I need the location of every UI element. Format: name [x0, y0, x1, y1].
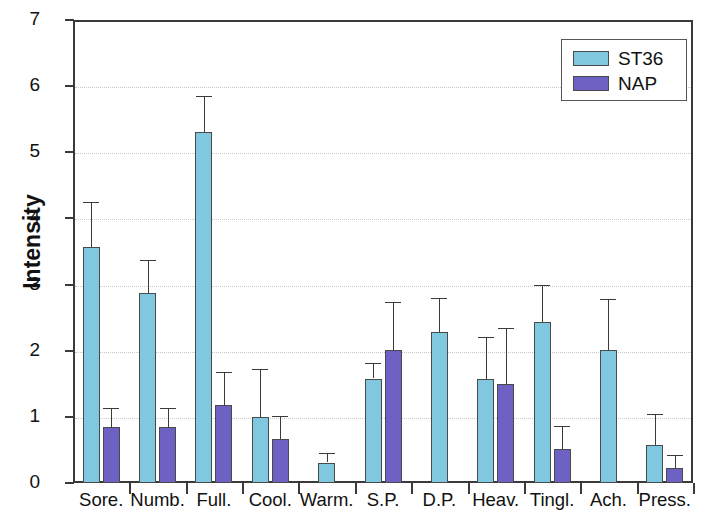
x-tick-label: Heav.	[468, 489, 524, 511]
bar-nap	[554, 449, 571, 483]
error-bar-cap	[216, 372, 232, 373]
error-bar-cap	[319, 453, 335, 454]
x-tick-label: Press.	[637, 489, 693, 511]
bar-nap	[385, 350, 402, 483]
bar-nap	[497, 384, 514, 483]
error-bar-cap	[385, 302, 401, 303]
x-tick-mark	[693, 483, 695, 494]
x-tick-label: D.P.	[411, 489, 467, 511]
error-bar-cap	[365, 363, 381, 364]
error-bar-line	[373, 363, 374, 379]
error-bar-cap	[478, 337, 494, 338]
error-bar-line	[439, 298, 440, 332]
legend-label-nap: NAP	[618, 74, 657, 93]
gridline	[75, 153, 691, 154]
y-tick-mark	[65, 217, 74, 219]
x-tick-label: Sore.	[73, 489, 129, 511]
y-tick-label: 1	[10, 405, 40, 427]
error-bar-line	[562, 426, 563, 448]
x-tick-label: Ach.	[580, 489, 636, 511]
error-bar-line	[486, 337, 487, 379]
bar-nap	[103, 427, 120, 483]
error-bar-line	[204, 96, 205, 132]
bar-st36	[646, 445, 663, 483]
y-tick-label: 0	[10, 471, 40, 493]
error-bar-cap	[83, 202, 99, 203]
y-tick-mark	[65, 350, 74, 352]
x-tick-label: Cool.	[242, 489, 298, 511]
y-tick-label: 4	[10, 206, 40, 228]
error-bar-line	[393, 302, 394, 350]
error-bar-line	[168, 408, 169, 427]
x-tick-label: Full.	[186, 489, 242, 511]
y-axis-title: Intensity	[19, 132, 46, 352]
error-bar-cap	[647, 414, 663, 415]
error-bar-line	[542, 285, 543, 323]
error-bar-cap	[103, 408, 119, 409]
bar-nap	[159, 427, 176, 483]
bar-st36	[600, 350, 617, 483]
bar-st36	[318, 463, 335, 484]
error-bar-line	[260, 369, 261, 417]
bar-nap	[666, 468, 683, 483]
error-bar-cap	[160, 408, 176, 409]
error-bar-line	[675, 455, 676, 468]
bar-st36	[477, 379, 494, 483]
chart-root: Intensity 01234567 Sore.Numb.Full.Cool.W…	[0, 0, 705, 521]
error-bar-cap	[498, 328, 514, 329]
bar-st36	[139, 293, 156, 483]
y-tick-label: 2	[10, 339, 40, 361]
y-tick-mark	[65, 151, 74, 153]
error-bar-line	[327, 453, 328, 463]
x-tick-label: Tingl.	[524, 489, 580, 511]
bar-nap	[215, 405, 232, 483]
error-bar-line	[655, 414, 656, 445]
error-bar-cap	[252, 369, 268, 370]
error-bar-cap	[554, 426, 570, 427]
y-tick-label: 5	[10, 140, 40, 162]
gridline	[75, 286, 691, 287]
x-tick-label: Numb.	[129, 489, 185, 511]
y-tick-mark	[65, 85, 74, 87]
error-bar-cap	[196, 96, 212, 97]
x-tick-label: S.P.	[355, 489, 411, 511]
bar-st36	[195, 132, 212, 483]
error-bar-line	[280, 416, 281, 439]
error-bar-line	[111, 408, 112, 428]
legend-swatch-st36	[573, 51, 609, 66]
error-bar-cap	[534, 285, 550, 286]
error-bar-line	[608, 299, 609, 350]
gridline	[75, 219, 691, 220]
y-tick-mark	[65, 284, 74, 286]
bar-nap	[272, 439, 289, 483]
bar-st36	[431, 332, 448, 483]
gridline	[75, 352, 691, 353]
error-bar-cap	[140, 260, 156, 261]
error-bar-line	[224, 372, 225, 405]
bar-st36	[365, 379, 382, 484]
error-bar-cap	[272, 416, 288, 417]
bar-st36	[534, 322, 551, 483]
y-tick-mark	[65, 19, 74, 21]
legend: ST36 NAP	[561, 39, 687, 101]
y-tick-label: 7	[10, 8, 40, 30]
y-tick-label: 6	[10, 74, 40, 96]
error-bar-line	[506, 328, 507, 384]
y-tick-mark	[65, 482, 74, 484]
legend-item-st36: ST36	[573, 46, 686, 71]
error-bar-line	[148, 260, 149, 293]
bar-st36	[83, 247, 100, 483]
error-bar-cap	[431, 298, 447, 299]
error-bar-cap	[667, 455, 683, 456]
y-tick-mark	[65, 416, 74, 418]
error-bar-line	[91, 202, 92, 247]
x-tick-label: Warm.	[298, 489, 354, 511]
bar-st36	[252, 417, 269, 483]
error-bar-cap	[600, 299, 616, 300]
legend-item-nap: NAP	[573, 71, 686, 96]
legend-label-st36: ST36	[618, 49, 663, 68]
legend-swatch-nap	[573, 76, 609, 91]
y-tick-label: 3	[10, 273, 40, 295]
